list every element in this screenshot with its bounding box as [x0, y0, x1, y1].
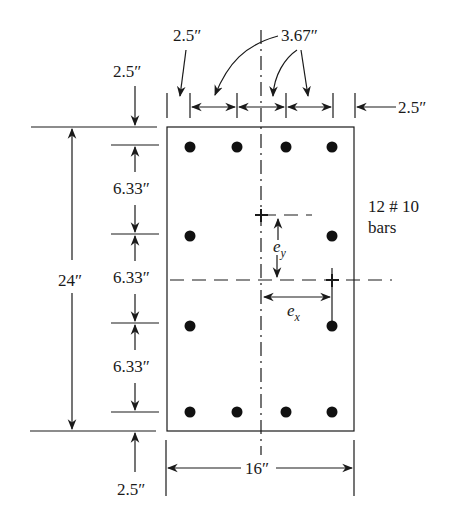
- centroid-plus-marker: [255, 209, 268, 222]
- vertical-spacing-label-2: 6.33″: [113, 268, 150, 287]
- right-cover-label: 2.5″: [398, 98, 426, 117]
- reinforcement-count-label: 12 # 10: [368, 197, 419, 216]
- vertical-spacing-label-3: 6.33″: [113, 357, 150, 376]
- overall-height-label: 24″: [58, 271, 82, 290]
- left-cover-label: 2.5″: [173, 26, 201, 45]
- spacing-callout-arrow-mid: [273, 50, 297, 96]
- ey-label: ey: [273, 237, 287, 260]
- bottom-cover-label: 2.5″: [117, 480, 145, 499]
- section-width-label: 16″: [245, 459, 269, 478]
- reinforcement-unit-label: bars: [368, 218, 396, 237]
- spacing-callout-arrow-left: [215, 36, 278, 95]
- horizontal-spacing-label: 3.67″: [281, 26, 318, 45]
- load-plus-marker: [326, 274, 339, 287]
- vertical-spacing-label-1: 6.33″: [113, 179, 150, 198]
- top-spacing-dimensions: [167, 93, 396, 118]
- spacing-callout-arrow-right: [301, 50, 308, 96]
- ex-label: ex: [287, 301, 301, 324]
- left-cover-arrow: [180, 50, 186, 96]
- top-cover-label: 2.5″: [113, 62, 141, 81]
- column-section-diagram: ey ex 2.5″ 3.67″ 2.5″ 2.5″ 24″: [0, 0, 451, 521]
